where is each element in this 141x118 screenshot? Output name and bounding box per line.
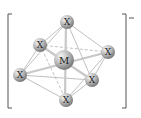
octahedral-complex-diagram: X X X M X X X [0, 0, 141, 118]
label-lower-right: X [89, 75, 96, 85]
label-upper-left: X [37, 40, 44, 50]
label-bottom: X [63, 95, 70, 105]
label-right: X [105, 47, 112, 57]
right-bracket [122, 14, 126, 108]
left-bracket [8, 14, 12, 108]
label-left: X [17, 70, 24, 80]
label-top: X [64, 17, 71, 27]
label-central: M [59, 55, 69, 66]
